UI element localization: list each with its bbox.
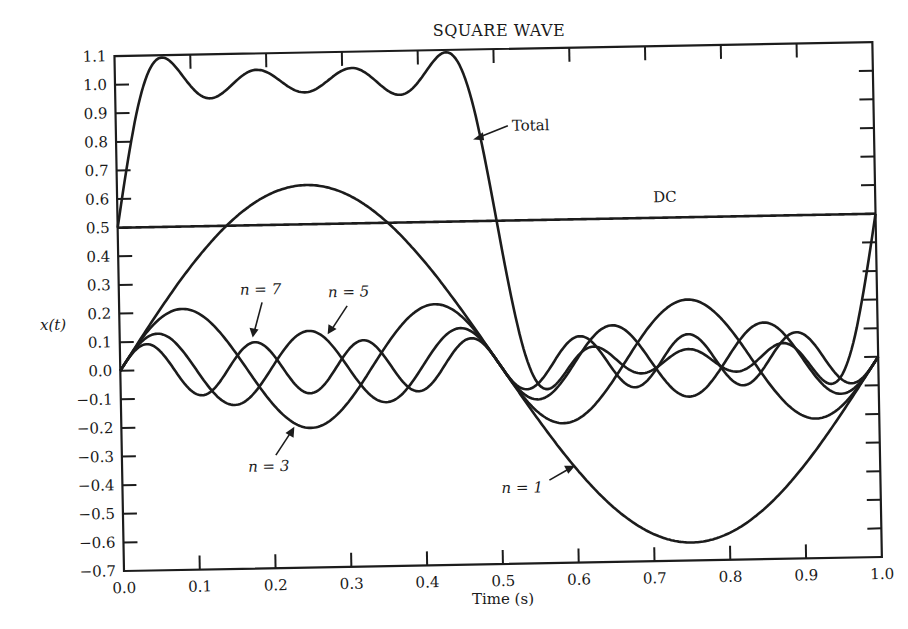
x-tick-label: 0.7 xyxy=(643,569,667,587)
label-n3: n = 3 xyxy=(248,457,290,476)
y-tick-label: −0.4 xyxy=(78,476,115,495)
label-total: Total xyxy=(512,116,550,135)
label-dc: DC xyxy=(653,188,677,206)
chart-title: SQUARE WAVE xyxy=(433,21,566,40)
y-tick-label: −0.2 xyxy=(77,419,114,438)
y-tick-label: −0.6 xyxy=(79,534,116,553)
curve-n7 xyxy=(120,331,879,397)
annotation-dc: DC xyxy=(653,188,677,206)
y-tick-label: 0.1 xyxy=(88,333,112,351)
y-tick-label: 0.4 xyxy=(86,247,110,265)
x-tick-label: 0.5 xyxy=(491,572,515,590)
x-tick-label: 0.6 xyxy=(567,570,591,588)
x-tick-label: 0.2 xyxy=(264,576,288,594)
y-tick-label: 0.5 xyxy=(86,219,110,237)
y-tick-label: 0.3 xyxy=(87,276,111,294)
y-tick-label: 0.2 xyxy=(87,305,111,323)
x-tick-label: 1.0 xyxy=(870,565,894,583)
label-n1: n = 1 xyxy=(501,478,543,497)
label-n7: n = 7 xyxy=(240,280,282,299)
x-axis-label: Time (s) xyxy=(472,590,534,608)
y-tick-label: 0.0 xyxy=(88,362,112,380)
y-axis-label: x(t) xyxy=(40,316,66,334)
y-tick-label: 0.7 xyxy=(85,162,109,180)
x-axis: 0.00.10.20.30.40.50.60.70.80.91.0 xyxy=(103,42,895,597)
y-tick-label: −0.1 xyxy=(76,391,113,410)
y-tick-label: −0.7 xyxy=(79,562,116,581)
annotation-total: Total xyxy=(473,116,550,140)
annotation-n1: n = 1 xyxy=(501,466,576,497)
y-tick-label: 0.6 xyxy=(85,190,109,208)
annotation-n3: n = 3 xyxy=(247,427,295,476)
plot-area: 1.11.00.90.80.70.60.50.40.30.20.10.0−0.1… xyxy=(70,33,894,598)
x-tick-label: 0.8 xyxy=(719,568,743,586)
x-tick-label: 0.1 xyxy=(188,577,212,595)
annotation-n5: n = 5 xyxy=(327,282,370,334)
y-tick-label: −0.3 xyxy=(77,448,114,467)
x-tick-label: 0.4 xyxy=(415,573,439,591)
label-n5: n = 5 xyxy=(328,282,370,301)
y-tick-label: 0.9 xyxy=(84,104,108,122)
y-tick-label: −0.5 xyxy=(78,505,115,524)
x-tick-label: 0.9 xyxy=(794,566,818,584)
x-tick-label: 0.3 xyxy=(340,575,364,593)
curves xyxy=(115,44,882,553)
plot-frame xyxy=(114,42,881,571)
square-wave-chart: SQUARE WAVE 1.11.00.90.80.70.60.50.40.30… xyxy=(0,0,908,629)
x-tick-label: 0.0 xyxy=(112,579,136,597)
y-tick-label: 1.0 xyxy=(83,76,107,94)
y-tick-label: 0.8 xyxy=(84,133,108,151)
annotation-n7: n = 7 xyxy=(240,280,283,338)
y-tick-label: 1.1 xyxy=(82,47,106,65)
